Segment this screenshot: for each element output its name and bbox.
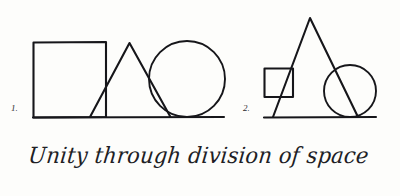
figure-one-baseline [33, 117, 224, 118]
figure-two-baseline [264, 117, 376, 118]
drawing-sheet: 1. 2. Unity through division of space [0, 0, 400, 196]
figure-one-circle [149, 41, 225, 117]
figure-two-circle [324, 65, 376, 117]
figure-two [264, 18, 376, 118]
figure-two-number: 2. [243, 103, 250, 113]
caption-text: Unity through division of space [0, 143, 400, 168]
figure-one-number: 1. [11, 103, 18, 113]
figure-one [33, 41, 225, 118]
